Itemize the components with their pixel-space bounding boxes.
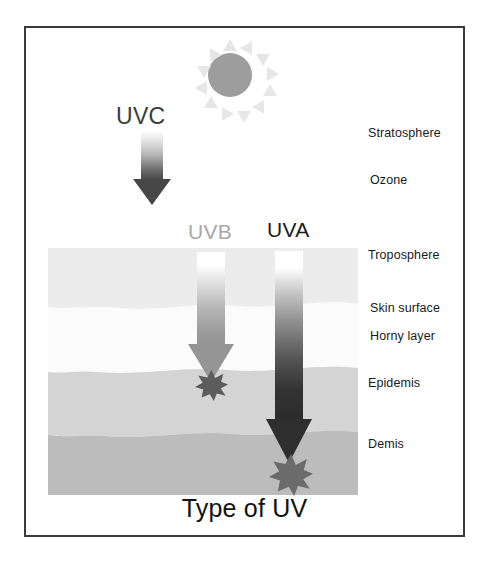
uva-label: UVA — [267, 218, 310, 242]
label-skin-surface: Skin surface — [370, 301, 440, 315]
label-troposphere: Troposphere — [368, 248, 440, 262]
sun-ray — [201, 96, 218, 114]
figure-frame: UVC UVB UVA Stratosphere Ozone Troposphe… — [24, 26, 465, 537]
uvc-label: UVC — [116, 103, 165, 130]
uvc-arrow-shaft — [141, 131, 163, 179]
uva-arrow — [275, 251, 303, 466]
uva-arrow-head — [266, 419, 312, 463]
uva-arrow-shaft — [275, 251, 303, 419]
sun-ray — [240, 38, 258, 55]
sun-ray — [252, 100, 270, 117]
label-epidemis: Epidemis — [368, 376, 420, 390]
sun-ray — [195, 81, 207, 95]
sun-ray — [216, 107, 234, 124]
label-horny-layer: Horny layer — [370, 329, 435, 343]
label-ozone: Ozone — [370, 173, 407, 187]
sun-icon — [187, 32, 273, 118]
label-demis: Demis — [368, 437, 404, 451]
sun-disc — [208, 53, 252, 97]
uvb-arrow-shaft — [197, 252, 225, 344]
sun-ray — [263, 84, 280, 102]
uvb-arrow — [197, 252, 225, 382]
uvb-label: UVB — [188, 220, 232, 244]
uvc-arrow — [141, 131, 163, 203]
sun-ray — [223, 39, 237, 51]
uvc-arrow-head — [133, 179, 171, 205]
sun-ray — [256, 48, 273, 66]
sun-ray — [267, 67, 279, 81]
sun-ray — [237, 111, 251, 123]
figure-title: Type of UV — [26, 494, 463, 523]
label-stratosphere: Stratosphere — [368, 126, 441, 140]
figure-canvas: UVC UVB UVA Stratosphere Ozone Troposphe… — [26, 28, 463, 535]
